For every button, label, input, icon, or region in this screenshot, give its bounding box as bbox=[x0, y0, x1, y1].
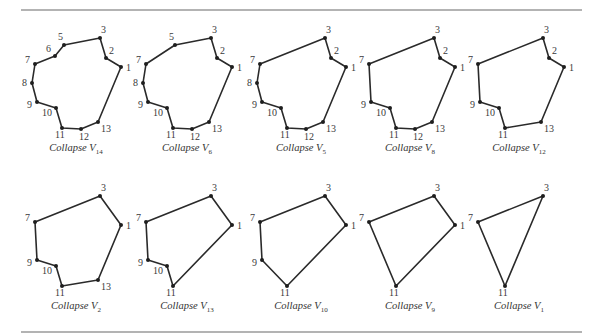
vertex-1-label: 1 bbox=[126, 62, 131, 73]
vertex-1-label: 1 bbox=[351, 220, 356, 231]
vertex-1-label: 1 bbox=[569, 62, 574, 73]
vertex-13-label: 13 bbox=[435, 123, 445, 134]
vertex-3-label: 3 bbox=[435, 24, 440, 35]
vertex-7-label: 7 bbox=[250, 54, 255, 65]
vertex-12-label: 12 bbox=[79, 131, 89, 142]
caption-subscript: 10 bbox=[321, 306, 329, 314]
vertex-8-dot bbox=[255, 81, 259, 85]
vertex-9-label: 9 bbox=[470, 99, 475, 110]
vertex-7-dot bbox=[367, 220, 371, 224]
vertex-13-dot bbox=[96, 278, 100, 282]
caption-subscript: 1 bbox=[540, 306, 544, 314]
vertex-7-dot bbox=[258, 220, 262, 224]
vertex-12-label: 12 bbox=[304, 131, 314, 142]
vertex-13-dot bbox=[539, 120, 543, 124]
panel-collapse-v2: 3113111097Collapse V2 bbox=[25, 182, 131, 314]
vertex-7-dot bbox=[476, 62, 480, 66]
vertex-5-dot bbox=[62, 43, 66, 47]
polygon-outline bbox=[369, 196, 455, 286]
polygon-outline bbox=[260, 196, 346, 286]
panel-caption: Collapse V6 bbox=[162, 142, 212, 156]
vertex-2-dot bbox=[329, 56, 333, 60]
vertex-11-label: 11 bbox=[498, 129, 508, 140]
caption-subscript: 2 bbox=[97, 306, 101, 314]
vertex-10-label: 10 bbox=[376, 107, 386, 118]
vertex-9-dot bbox=[260, 100, 264, 104]
vertex-3-dot bbox=[98, 194, 102, 198]
vertex-3-label: 3 bbox=[544, 182, 549, 193]
panel-caption: Collapse V14 bbox=[49, 142, 103, 156]
vertex-6-label: 6 bbox=[46, 43, 51, 54]
polygon-outline bbox=[478, 196, 543, 286]
vertex-3-dot bbox=[98, 36, 102, 40]
vertex-13-label: 13 bbox=[212, 123, 222, 134]
vertex-1-dot bbox=[119, 223, 123, 227]
vertex-9-label: 9 bbox=[361, 99, 366, 110]
vertex-12-label: 12 bbox=[413, 131, 423, 142]
vertex-8-dot bbox=[141, 81, 145, 85]
vertex-8-label: 8 bbox=[22, 77, 27, 88]
vertex-11-label: 11 bbox=[280, 287, 290, 298]
vertex-3-label: 3 bbox=[101, 24, 106, 35]
panel-collapse-v12: 32113111097Collapse V12 bbox=[468, 24, 574, 156]
vertex-9-dot bbox=[369, 100, 373, 104]
caption-subscript: 9 bbox=[431, 306, 435, 314]
panel-caption: Collapse V9 bbox=[385, 300, 435, 314]
vertex-2-dot bbox=[547, 56, 551, 60]
vertex-7-dot bbox=[33, 62, 37, 66]
panel-grid: 3211312111098765Collapse V14321131211109… bbox=[22, 24, 574, 314]
caption-subscript: 8 bbox=[431, 148, 435, 156]
vertex-2-dot bbox=[104, 56, 108, 60]
vertex-2-label: 2 bbox=[334, 45, 339, 56]
vertex-9-label: 9 bbox=[27, 257, 32, 268]
vertex-11-label: 11 bbox=[498, 287, 508, 298]
vertex-13-dot bbox=[207, 120, 211, 124]
vertex-2-label: 2 bbox=[552, 45, 557, 56]
vertex-3-dot bbox=[209, 36, 213, 40]
vertex-1-label: 1 bbox=[237, 62, 242, 73]
vertex-1-label: 1 bbox=[351, 62, 356, 73]
vertex-3-label: 3 bbox=[544, 24, 549, 35]
vertex-3-dot bbox=[209, 194, 213, 198]
vertex-3-dot bbox=[432, 36, 436, 40]
polygon-collapse-figure: 3211312111098765Collapse V14321131211109… bbox=[0, 0, 599, 334]
caption-subscript: 13 bbox=[207, 306, 215, 314]
vertex-11-label: 11 bbox=[166, 129, 176, 140]
vertex-3-label: 3 bbox=[326, 24, 331, 35]
vertex-2-label: 2 bbox=[109, 45, 114, 56]
vertex-10-dot bbox=[497, 106, 501, 110]
vertex-1-label: 1 bbox=[126, 220, 131, 231]
panel-collapse-v1: 3117Collapse V1 bbox=[468, 182, 549, 314]
vertex-7-dot bbox=[367, 62, 371, 66]
vertex-6-dot bbox=[53, 54, 57, 58]
panel-caption: Collapse V2 bbox=[51, 300, 101, 314]
vertex-8-dot bbox=[30, 81, 34, 85]
vertex-3-label: 3 bbox=[326, 182, 331, 193]
vertex-9-label: 9 bbox=[27, 99, 32, 110]
vertex-10-label: 10 bbox=[42, 107, 52, 118]
vertex-1-label: 1 bbox=[460, 62, 465, 73]
panel-caption: Collapse V5 bbox=[276, 142, 326, 156]
vertex-7-dot bbox=[144, 62, 148, 66]
vertex-3-label: 3 bbox=[212, 24, 217, 35]
panel-collapse-v6: 321131211109875Collapse V6 bbox=[133, 24, 242, 156]
vertex-2-dot bbox=[438, 56, 442, 60]
vertex-3-label: 3 bbox=[435, 182, 440, 193]
panel-caption: Collapse V10 bbox=[274, 300, 328, 314]
vertex-7-label: 7 bbox=[250, 212, 255, 223]
vertex-11-label: 11 bbox=[280, 129, 290, 140]
vertex-7-dot bbox=[33, 220, 37, 224]
vertex-1-label: 1 bbox=[237, 220, 242, 231]
panel-caption: Collapse V1 bbox=[494, 300, 544, 314]
vertex-13-dot bbox=[96, 120, 100, 124]
panel-caption: Collapse V12 bbox=[492, 142, 546, 156]
vertex-3-dot bbox=[541, 194, 545, 198]
panel-collapse-v14: 3211312111098765Collapse V14 bbox=[22, 24, 131, 156]
vertex-1-dot bbox=[119, 65, 123, 69]
panel-caption: Collapse V13 bbox=[160, 300, 214, 314]
vertex-7-label: 7 bbox=[136, 212, 141, 223]
vertex-8-label: 8 bbox=[133, 77, 138, 88]
vertex-5-label: 5 bbox=[169, 31, 174, 42]
vertex-8-label: 8 bbox=[247, 77, 252, 88]
vertex-2-label: 2 bbox=[443, 45, 448, 56]
